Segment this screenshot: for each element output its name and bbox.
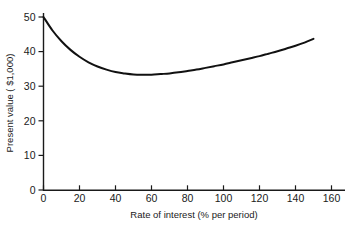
x-tick-label: 20 — [74, 192, 86, 204]
y-axis-ticks — [39, 17, 44, 190]
x-tick-label: 0 — [41, 192, 47, 204]
x-tick-label: 60 — [146, 192, 158, 204]
y-tick-label: 0 — [30, 184, 36, 196]
y-axis-tick-labels: 50 40 30 20 10 0 — [24, 11, 36, 196]
x-tick-label: 40 — [110, 192, 122, 204]
present-value-vs-interest-rate-chart: 50 40 30 20 10 0 0 20 40 60 80 100 120 1… — [0, 0, 352, 228]
x-tick-label: 80 — [182, 192, 194, 204]
x-tick-label: 100 — [215, 192, 233, 204]
y-tick-label: 50 — [24, 11, 36, 23]
x-tick-label: 120 — [251, 192, 269, 204]
y-axis-title: Present value ( $1,000) — [4, 54, 15, 153]
y-tick-label: 10 — [24, 149, 36, 161]
y-tick-label: 40 — [24, 45, 36, 57]
x-axis-tick-labels: 0 20 40 60 80 100 120 140 160 — [41, 192, 341, 204]
x-tick-label: 140 — [287, 192, 305, 204]
x-axis-title: Rate of interest (% per period) — [130, 209, 257, 220]
y-tick-label: 30 — [24, 80, 36, 92]
x-tick-label: 160 — [323, 192, 341, 204]
y-tick-label: 20 — [24, 115, 36, 127]
x-axis-ticks — [44, 185, 332, 190]
chart-figure: 50 40 30 20 10 0 0 20 40 60 80 100 120 1… — [0, 0, 352, 228]
present-value-curve — [44, 17, 314, 75]
